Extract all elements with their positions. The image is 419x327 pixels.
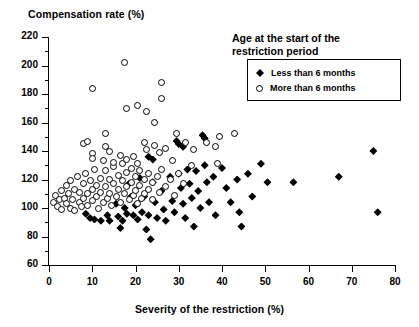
- data-point-filled: [227, 198, 235, 206]
- data-point-open: [188, 162, 195, 169]
- data-point-open: [149, 179, 156, 186]
- y-tick: [42, 265, 49, 266]
- y-minor-tick: [45, 251, 49, 252]
- data-point-open: [91, 166, 98, 173]
- y-tick-label: 220: [0, 30, 38, 41]
- open-circle-icon: [256, 85, 263, 92]
- y-tick-label: 140: [0, 144, 38, 155]
- data-point-filled: [289, 178, 297, 186]
- data-point-open: [231, 130, 238, 137]
- data-point-open: [100, 157, 107, 164]
- data-point-open: [93, 182, 100, 189]
- x-tick: [136, 265, 137, 272]
- x-tick: [395, 265, 396, 272]
- legend-title-line-2: restriction period: [232, 45, 408, 58]
- data-point-open: [121, 59, 128, 66]
- x-tick-label: 70: [332, 276, 372, 287]
- data-point-open: [74, 173, 81, 180]
- x-tick: [222, 265, 223, 272]
- y-tick-label: 80: [0, 230, 38, 241]
- data-point-open: [162, 183, 169, 190]
- legend-entry-less-than-6-months[interactable]: Less than 6 months: [256, 68, 356, 78]
- data-point-filled: [212, 211, 220, 219]
- data-point-open: [158, 95, 165, 102]
- data-point-open: [108, 202, 115, 209]
- data-point-filled: [235, 208, 243, 216]
- y-tick: [42, 94, 49, 95]
- data-point-filled: [374, 208, 382, 216]
- y-tick: [42, 208, 49, 209]
- filled-diamond-icon: [256, 69, 264, 77]
- data-point-open: [182, 139, 189, 146]
- data-point-filled: [153, 214, 161, 222]
- data-point-open: [117, 199, 124, 206]
- y-tick-label: 60: [0, 258, 38, 269]
- data-point-open: [84, 138, 91, 145]
- x-axis-title: Severity of the restriction (%): [0, 303, 419, 315]
- data-point-open: [82, 170, 89, 177]
- y-minor-tick: [45, 108, 49, 109]
- data-point-filled: [222, 184, 230, 192]
- data-point-open: [154, 173, 161, 180]
- data-point-open: [102, 183, 109, 190]
- data-point-open: [141, 176, 148, 183]
- y-tick-label: 100: [0, 201, 38, 212]
- data-point-filled: [147, 235, 155, 243]
- data-point-open: [145, 170, 152, 177]
- data-point-open: [173, 130, 180, 137]
- legend-entry-label: Less than 6 months: [271, 68, 356, 78]
- data-point-open: [143, 108, 150, 115]
- y-minor-tick: [45, 165, 49, 166]
- legend-box: Less than 6 months More than 6 months: [247, 59, 401, 101]
- data-point-open: [134, 160, 141, 167]
- data-point-filled: [190, 223, 198, 231]
- x-tick: [352, 265, 353, 272]
- data-point-filled: [369, 147, 377, 155]
- data-point-open: [151, 119, 158, 126]
- data-point-open: [128, 165, 135, 172]
- data-point-open: [89, 155, 96, 162]
- legend-title-line-1: Age at the start of the: [232, 32, 408, 45]
- y-minor-tick: [45, 51, 49, 52]
- data-point-filled: [160, 205, 168, 213]
- x-tick-label: 20: [116, 276, 156, 287]
- data-point-filled: [181, 214, 189, 222]
- y-tick: [42, 66, 49, 67]
- data-point-open: [158, 79, 165, 86]
- y-tick: [42, 123, 49, 124]
- data-point-filled: [335, 173, 343, 181]
- legend-entry-more-than-6-months[interactable]: More than 6 months: [256, 83, 356, 93]
- data-point-filled: [142, 225, 150, 233]
- data-point-filled: [201, 161, 209, 169]
- data-point-open: [167, 176, 174, 183]
- x-tick: [92, 265, 93, 272]
- x-tick-label: 50: [245, 276, 285, 287]
- data-point-filled: [237, 223, 245, 231]
- y-minor-tick: [45, 194, 49, 195]
- y-tick-label: 160: [0, 116, 38, 127]
- data-point-open: [145, 186, 152, 193]
- data-point-open: [106, 148, 113, 155]
- data-point-open: [180, 180, 187, 187]
- data-point-open: [169, 157, 176, 164]
- data-point-filled: [162, 217, 170, 225]
- data-point-open: [175, 170, 182, 177]
- y-minor-tick: [45, 222, 49, 223]
- x-tick: [179, 265, 180, 272]
- data-point-open: [89, 85, 96, 92]
- data-point-open: [203, 139, 210, 146]
- data-point-open: [141, 139, 148, 146]
- data-point-open: [156, 189, 163, 196]
- data-point-filled: [97, 217, 105, 225]
- data-point-open: [216, 133, 223, 140]
- data-point-open: [158, 166, 165, 173]
- x-tick-label: 30: [159, 276, 199, 287]
- x-tick-label: 80: [375, 276, 415, 287]
- data-point-filled: [203, 178, 211, 186]
- data-point-open: [212, 143, 219, 150]
- data-point-open: [80, 180, 87, 187]
- data-point-open: [190, 146, 197, 153]
- data-point-open: [97, 189, 104, 196]
- x-tick: [265, 265, 266, 272]
- data-point-open: [97, 175, 104, 182]
